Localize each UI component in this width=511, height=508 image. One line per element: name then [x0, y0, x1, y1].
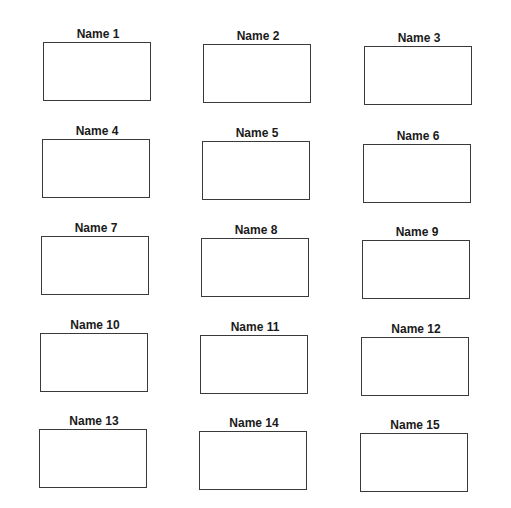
name-box: [41, 236, 149, 295]
name-box: [360, 433, 468, 492]
name-label: Name 12: [361, 322, 471, 336]
name-box: [361, 337, 469, 396]
name-box: [363, 144, 471, 203]
name-label: Name 4: [42, 124, 152, 138]
name-box: [200, 335, 308, 394]
name-box: [362, 240, 470, 299]
name-box: [201, 238, 309, 297]
name-label: Name 3: [364, 31, 474, 45]
name-label: Name 8: [201, 223, 311, 237]
name-label: Name 5: [202, 126, 312, 140]
name-box: [39, 429, 147, 488]
name-label: Name 7: [41, 221, 151, 235]
name-label: Name 11: [200, 320, 310, 334]
name-label: Name 6: [363, 129, 473, 143]
name-label: Name 10: [40, 318, 150, 332]
name-label: Name 15: [360, 418, 470, 432]
name-label: Name 2: [203, 29, 313, 43]
name-box: [203, 44, 311, 103]
name-label: Name 14: [199, 416, 309, 430]
name-label: Name 13: [39, 414, 149, 428]
name-label: Name 1: [43, 27, 153, 41]
name-box: [202, 141, 310, 200]
name-box: [364, 46, 472, 105]
name-label: Name 9: [362, 225, 472, 239]
name-box: [42, 139, 150, 198]
name-box: [43, 42, 151, 101]
name-box: [199, 431, 307, 490]
name-box: [40, 333, 148, 392]
